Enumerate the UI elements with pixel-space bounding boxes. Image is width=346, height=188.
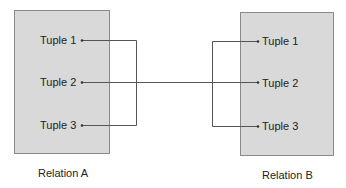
relation-a-label: Relation A: [38, 167, 88, 179]
connector-lines: [0, 0, 346, 188]
relation-b-label: Relation B: [262, 169, 313, 181]
